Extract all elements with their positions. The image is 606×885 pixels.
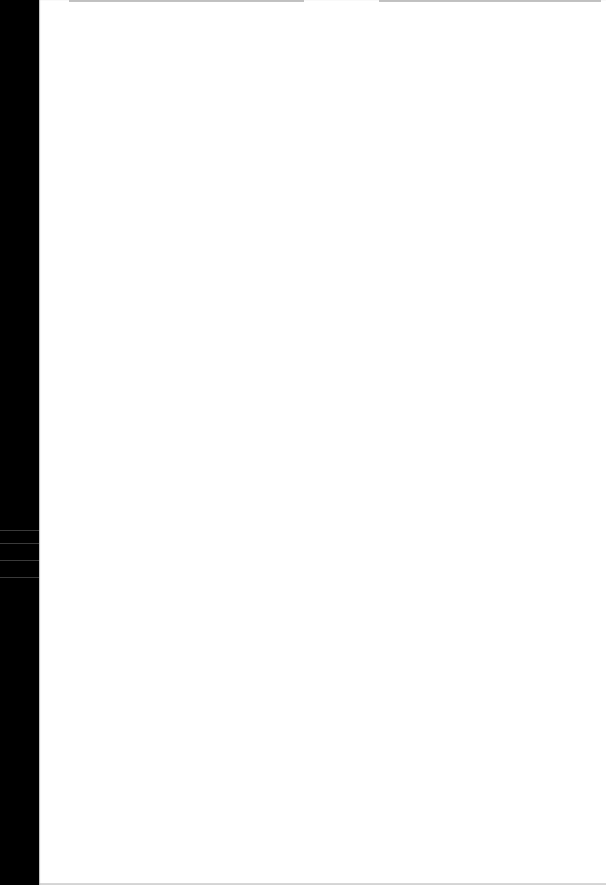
scan-artifact-line	[0, 577, 39, 578]
scan-artifact-line	[0, 560, 39, 561]
scan-artifact-line	[0, 543, 39, 544]
page-edge-shadow	[379, 0, 601, 2]
page-edge-shadow	[69, 0, 304, 2]
scan-artifact-line	[0, 530, 39, 531]
blank-page	[39, 0, 606, 885]
scanner-border	[0, 0, 39, 885]
